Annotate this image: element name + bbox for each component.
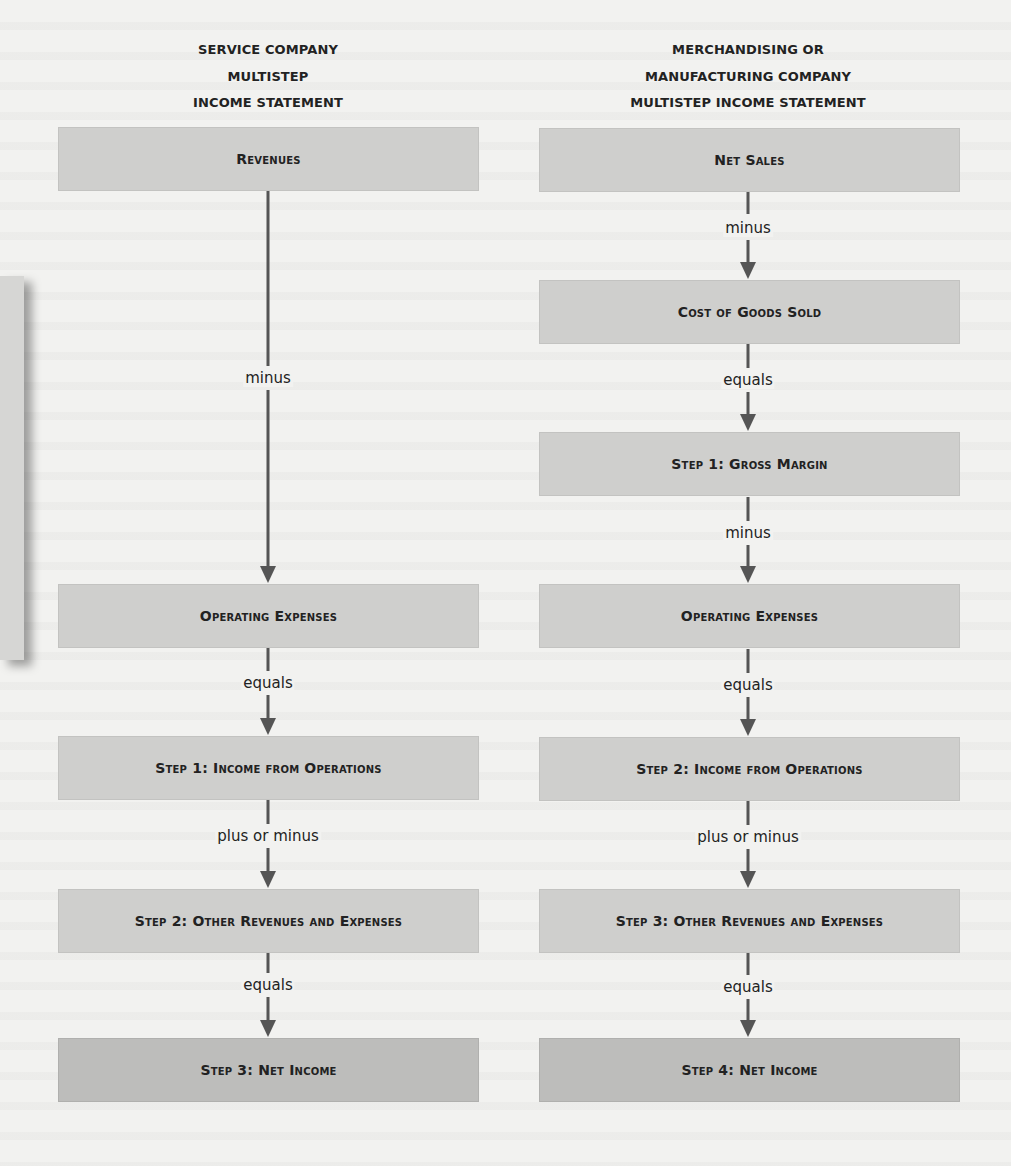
other-revenues-expenses-box: Step 3: Other Revenues and Expenses (539, 889, 960, 953)
cost-of-goods-sold-box: Cost of Goods Sold (539, 280, 960, 344)
connector-line (267, 695, 270, 720)
revenues-box: Revenues (58, 127, 479, 191)
arrow-down-icon (260, 718, 276, 735)
header-line: SERVICE COMPANY (118, 37, 418, 64)
merchandising-company-header: MERCHANDISING OR MANUFACTURING COMPANY M… (573, 37, 923, 117)
connector-line (267, 800, 270, 824)
connector-line (267, 997, 270, 1020)
net-income-box: Step 3: Net Income (58, 1038, 479, 1102)
header-line: MERCHANDISING OR (573, 37, 923, 64)
header-line: INCOME STATEMENT (118, 90, 418, 117)
connector-line (747, 392, 750, 416)
connector-line (747, 801, 750, 825)
header-line: MULTISTEP (118, 64, 418, 91)
connector-line (267, 390, 270, 568)
gross-margin-box: Step 1: Gross Margin (539, 432, 960, 496)
arrow-down-icon (740, 1020, 756, 1037)
net-income-box: Step 4: Net Income (539, 1038, 960, 1102)
operating-expenses-box: Operating Expenses (539, 584, 960, 648)
connector-line (747, 953, 750, 975)
operator-plus-or-minus: plus or minus (215, 827, 321, 845)
connector-line (267, 648, 270, 671)
arrow-down-icon (740, 719, 756, 736)
connector-line (747, 497, 750, 521)
connector-line (747, 697, 750, 721)
operator-equals: equals (721, 676, 774, 694)
connector-line (267, 848, 270, 873)
income-from-operations-box: Step 2: Income from Operations (539, 737, 960, 801)
header-line: MANUFACTURING COMPANY (573, 64, 923, 91)
operator-minus: minus (723, 219, 773, 237)
arrow-down-icon (740, 414, 756, 431)
net-sales-box: Net Sales (539, 128, 960, 192)
connector-line (747, 240, 750, 264)
arrow-down-icon (740, 262, 756, 279)
connector-line (747, 192, 750, 214)
connector-line (747, 344, 750, 368)
connector-line (267, 191, 270, 366)
operator-plus-or-minus: plus or minus (695, 828, 801, 846)
connector-line (747, 849, 750, 872)
connector-line (747, 545, 750, 568)
arrow-down-icon (260, 871, 276, 888)
operator-minus: minus (243, 369, 293, 387)
arrow-down-icon (260, 566, 276, 583)
other-revenues-expenses-box: Step 2: Other Revenues and Expenses (58, 889, 479, 953)
arrow-down-icon (740, 566, 756, 583)
operator-equals: equals (721, 978, 774, 996)
operating-expenses-box: Operating Expenses (58, 584, 479, 648)
arrow-down-icon (260, 1020, 276, 1037)
operator-equals: equals (241, 976, 294, 994)
income-from-operations-box: Step 1: Income from Operations (58, 736, 479, 800)
service-company-header: SERVICE COMPANY MULTISTEP INCOME STATEME… (118, 37, 418, 117)
header-line: MULTISTEP INCOME STATEMENT (573, 90, 923, 117)
side-panel-edge (0, 276, 24, 660)
connector-line (747, 649, 750, 673)
connector-line (747, 999, 750, 1021)
operator-equals: equals (241, 674, 294, 692)
connector-line (267, 953, 270, 973)
operator-minus: minus (723, 524, 773, 542)
arrow-down-icon (740, 871, 756, 888)
operator-equals: equals (721, 371, 774, 389)
